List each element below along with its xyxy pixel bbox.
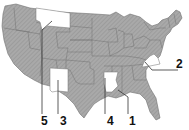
- state-label-1: 1: [129, 115, 136, 127]
- state-label-4: 4: [107, 115, 114, 127]
- highlighted-state-5[interactable]: [36, 8, 70, 30]
- us-map: [0, 0, 189, 130]
- highlighted-state-3[interactable]: [50, 68, 68, 92]
- state-label-2: 2: [176, 58, 183, 70]
- state-label-3: 3: [60, 115, 67, 127]
- state-label-5: 5: [41, 115, 48, 127]
